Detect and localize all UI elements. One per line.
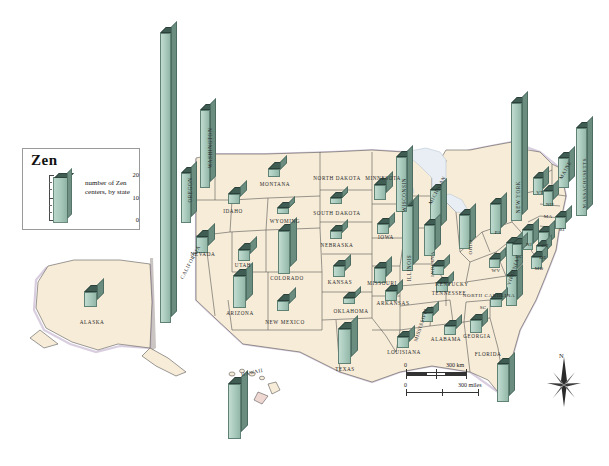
scale-miles-zero: 0 bbox=[404, 382, 407, 388]
map-canvas: .land{fill:#f7ecd8;stroke:#4a4a4a;stroke… bbox=[0, 0, 609, 466]
state-abbrev-de: DE bbox=[539, 255, 546, 260]
state-label-missouri: MISSOURI bbox=[367, 280, 397, 286]
scale-tick bbox=[442, 389, 443, 396]
bar-nebraska bbox=[330, 231, 342, 239]
state-abbrev-sc: SC bbox=[480, 305, 487, 310]
legend-tick-20 bbox=[49, 175, 54, 176]
bar-georgia bbox=[470, 320, 482, 333]
scale-bar: 0 300 km 0 300 miles bbox=[404, 362, 500, 398]
bar-texas bbox=[338, 329, 351, 364]
compass-north-label: N bbox=[559, 352, 564, 359]
bar-louisiana bbox=[397, 337, 409, 348]
legend-label-20: 20 bbox=[117, 171, 139, 178]
scale-segment bbox=[446, 372, 466, 376]
state-label-nebraska: NEBRASKA bbox=[321, 242, 354, 248]
state-abbrev-md: MD bbox=[535, 266, 544, 271]
state-label-georgia: GEORGIA bbox=[463, 333, 491, 339]
state-abbrev-dc: DC bbox=[515, 254, 523, 259]
bar-southcarolina bbox=[490, 299, 502, 307]
bar-utah bbox=[238, 250, 250, 261]
state-label-north-carolina: NORTH CAROLINA bbox=[463, 293, 515, 298]
bar-front-face bbox=[330, 231, 342, 239]
bar-front-face bbox=[330, 198, 342, 204]
state-abbrev-wv: WV bbox=[492, 268, 501, 273]
bar-newmexico bbox=[277, 301, 289, 311]
bar-front-face bbox=[470, 320, 482, 333]
state-label-kansas: KANSAS bbox=[328, 279, 352, 285]
state-label-oregon: OREGON bbox=[187, 177, 193, 202]
state-abbrev-ri: RI bbox=[559, 227, 565, 232]
bar-alaska bbox=[84, 292, 97, 307]
bar-front-face bbox=[160, 33, 171, 323]
state-label-arizona: ARIZONA bbox=[226, 310, 254, 316]
bar-front-face bbox=[233, 276, 246, 308]
bar-front-face bbox=[277, 301, 289, 311]
state-label-colorado: COLORADO bbox=[270, 275, 304, 281]
scale-tick bbox=[478, 389, 479, 396]
legend-title: Zen bbox=[31, 152, 58, 169]
scale-miles-label: 300 miles bbox=[458, 382, 482, 388]
scale-tick bbox=[406, 389, 407, 396]
bar-front-face bbox=[278, 231, 290, 274]
compass-star-icon bbox=[543, 352, 587, 408]
bar-iowa bbox=[377, 224, 389, 234]
bar-kansas bbox=[333, 266, 345, 277]
bar-side-face bbox=[435, 213, 441, 250]
bar-front-face bbox=[84, 292, 97, 307]
bar-side-face bbox=[351, 315, 358, 357]
bar-arizona bbox=[233, 276, 246, 308]
state-abbrev-vt: VT bbox=[536, 190, 543, 195]
legend-label-0: 0 bbox=[117, 216, 139, 223]
state-label-south-dakota: SOUTH DAKOTA bbox=[313, 210, 360, 216]
legend-minor-tick bbox=[49, 212, 52, 213]
bar-southdakota bbox=[330, 198, 342, 204]
state-label-arkansas: ARKANSAS bbox=[377, 300, 410, 306]
state-abbrev-nh: NH bbox=[546, 202, 554, 207]
bar-side-face bbox=[171, 21, 177, 317]
bar-front-face bbox=[444, 326, 456, 335]
state-label-oklahoma: OKLAHOMA bbox=[333, 308, 368, 314]
state-abbrev-ma: MA bbox=[544, 214, 553, 219]
bar-front-face bbox=[377, 224, 389, 234]
state-label-idaho: IDAHO bbox=[223, 208, 243, 214]
bar-side-face bbox=[470, 203, 476, 243]
state-label-indiana: INDIANA bbox=[430, 251, 435, 277]
bar-side-face bbox=[290, 217, 297, 267]
state-label-utah: UTAH bbox=[235, 262, 251, 268]
bar-california bbox=[160, 33, 171, 323]
legend-sample-bar bbox=[53, 177, 68, 223]
state-label-montana: MONTANA bbox=[260, 181, 290, 187]
legend-minor-tick bbox=[49, 205, 52, 206]
bar-colorado bbox=[278, 231, 290, 274]
legend-minor-tick bbox=[49, 189, 52, 190]
state-label-florida: FLORIDA bbox=[475, 351, 502, 357]
bar-front-face bbox=[343, 298, 355, 304]
bar-wyoming bbox=[277, 208, 289, 214]
bar-front-face bbox=[238, 250, 250, 261]
state-abbrev-ct: CT bbox=[542, 243, 549, 248]
bar-side-face bbox=[407, 145, 413, 206]
bar-side-face bbox=[517, 264, 523, 300]
legend-minor-tick bbox=[49, 182, 52, 183]
bar-front-face bbox=[490, 299, 502, 307]
scale-tick bbox=[466, 369, 467, 379]
state-label-ohio: OHIO bbox=[468, 240, 473, 255]
bar-side-face bbox=[587, 116, 593, 210]
bar-side-face bbox=[501, 192, 507, 228]
bar-idaho bbox=[228, 194, 240, 204]
bar-oklahoma bbox=[343, 298, 355, 304]
bar-alabama bbox=[444, 326, 456, 335]
state-label-massachusetts: MASSACHUSETTS bbox=[582, 158, 587, 208]
bar-front-face bbox=[277, 208, 289, 214]
bar-front-face bbox=[228, 194, 240, 204]
scale-tick bbox=[436, 369, 437, 379]
bar-front-face bbox=[374, 185, 386, 200]
legend-caption: number of Zen centers, by state bbox=[85, 179, 139, 196]
state-label-minnesota: MINNESOTA bbox=[365, 175, 401, 181]
usa-map-shapes: .land{fill:#f7ecd8;stroke:#4a4a4a;stroke… bbox=[0, 0, 609, 466]
state-label-nevada: NEVADA bbox=[191, 251, 216, 257]
legend-box: Zen 20 10 0 number of Zen centers, by st… bbox=[22, 148, 140, 230]
state-label-wisconsin: WISCONSIN bbox=[401, 178, 407, 212]
state-label-alaska: ALASKA bbox=[80, 319, 105, 325]
state-abbrev-nj: NJ bbox=[526, 242, 532, 247]
